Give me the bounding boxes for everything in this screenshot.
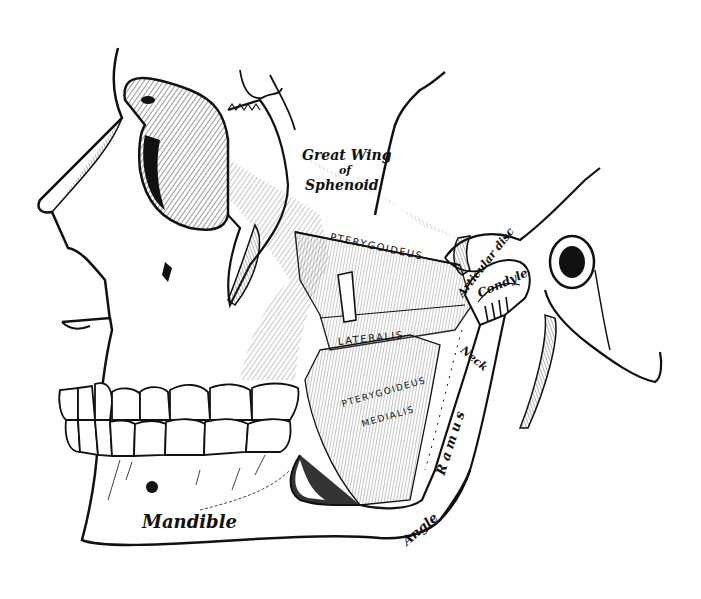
label-great-wing-line2: of [339, 165, 351, 176]
upper-teeth [59, 383, 298, 420]
skull-muscle-illustration: Great Wing of Sphenoid PTERYGOIDEUS LATE… [0, 0, 701, 599]
label-great-wing-line3: Sphenoid [305, 178, 379, 192]
illustration-linework [0, 0, 701, 599]
lower-teeth [66, 419, 291, 456]
jaw-hatching [108, 455, 290, 510]
label-mandible: Mandible [142, 513, 237, 531]
label-great-wing-line1: Great Wing [302, 148, 391, 162]
